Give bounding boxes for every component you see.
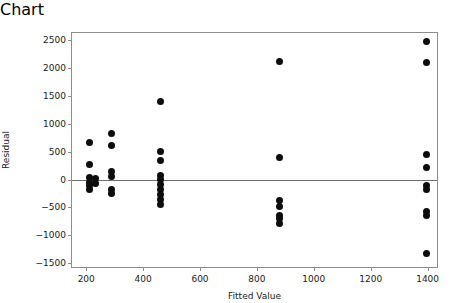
data-point	[423, 59, 430, 66]
y-tick-label: 500	[49, 147, 66, 157]
data-point	[423, 250, 430, 257]
x-axis-title: Fitted Value	[71, 291, 438, 301]
y-tick-label: 2000	[43, 63, 66, 73]
y-tick-mark	[68, 207, 72, 208]
data-point	[276, 58, 283, 65]
data-point	[276, 220, 283, 227]
x-tick-label: 1400	[416, 274, 439, 284]
x-tick-label: 1200	[359, 274, 382, 284]
y-tick-label: −500	[41, 202, 66, 212]
data-point	[423, 38, 430, 45]
y-tick-label: 2500	[43, 35, 66, 45]
data-point	[423, 164, 430, 171]
y-tick-label: −1000	[36, 230, 66, 240]
x-tick-label: 400	[135, 274, 152, 284]
data-point	[108, 142, 115, 149]
y-tick-mark	[68, 96, 72, 97]
data-point	[86, 161, 93, 168]
data-point	[157, 148, 164, 155]
y-tick-mark	[68, 235, 72, 236]
data-point	[157, 201, 164, 208]
y-tick-mark	[68, 124, 72, 125]
residual-scatter-figure: −1500−1000−50005001000150020002500 20040…	[0, 19, 459, 303]
x-tick-mark	[314, 267, 315, 271]
x-tick-mark	[86, 267, 87, 271]
data-point	[86, 139, 93, 146]
x-tick-label: 200	[78, 274, 95, 284]
y-tick-mark	[68, 40, 72, 41]
data-point	[276, 203, 283, 210]
x-tick-label: 600	[191, 274, 208, 284]
y-tick-mark	[68, 180, 72, 181]
y-tick-label: 0	[60, 175, 66, 185]
y-tick-label: −1500	[36, 258, 66, 268]
y-tick-mark	[68, 68, 72, 69]
x-tick-mark	[371, 267, 372, 271]
y-axis-title: Residual	[1, 131, 11, 169]
x-tick-label: 1000	[302, 274, 325, 284]
y-tick-mark	[68, 263, 72, 264]
x-tick-mark	[200, 267, 201, 271]
plot-area: −1500−1000−50005001000150020002500 20040…	[71, 32, 438, 268]
data-point	[276, 154, 283, 161]
data-point	[157, 98, 164, 105]
zero-reference-line	[72, 180, 437, 181]
x-tick-mark	[143, 267, 144, 271]
y-tick-mark	[68, 152, 72, 153]
data-point	[108, 130, 115, 137]
x-tick-label: 800	[248, 274, 265, 284]
data-point	[108, 190, 115, 197]
data-point	[92, 180, 99, 187]
data-point	[423, 212, 430, 219]
data-point	[423, 151, 430, 158]
x-tick-mark	[428, 267, 429, 271]
y-tick-label: 1500	[43, 91, 66, 101]
y-tick-label: 1000	[43, 119, 66, 129]
data-point	[157, 157, 164, 164]
data-point	[86, 186, 93, 193]
data-point	[423, 186, 430, 193]
x-tick-mark	[257, 267, 258, 271]
